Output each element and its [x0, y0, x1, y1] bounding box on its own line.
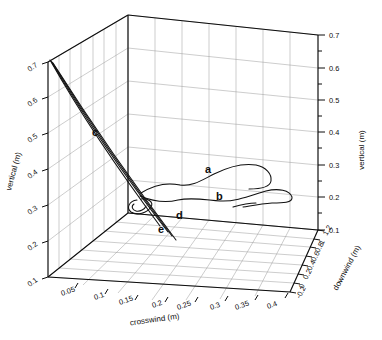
cw-tick-7: 0.4: [266, 299, 279, 311]
vertical-right-tick-labels: 0.7 0.6 0.5 0.4 0.3 0.2 0.1: [329, 31, 339, 235]
plot-canvas: 0.7 0.6 0.5 0.4 0.3 0.2 0.1 vertical (m)…: [0, 0, 382, 340]
vl-tick-0: 0.7: [26, 60, 40, 73]
curve-label-e: e: [158, 223, 164, 235]
crosswind-axis-title: crosswind (m): [129, 312, 180, 328]
curve-label-a: a: [205, 163, 212, 175]
vl-tick-6: 0.1: [26, 275, 40, 288]
cw-tick-2: 0.15: [118, 294, 135, 307]
curve-label-d: d: [176, 209, 183, 221]
vr-tick-2: 0.5: [329, 96, 339, 105]
vl-tick-5: 0.2: [26, 239, 40, 252]
crosswind-axis-ticks: [75, 283, 288, 302]
cw-tick-1: 0.1: [93, 290, 106, 302]
vr-tick-0: 0.7: [329, 31, 339, 40]
vl-tick-1: 0.6: [26, 95, 40, 108]
vr-tick-4: 0.3: [329, 161, 339, 170]
grid-back-left-wall: [48, 15, 128, 277]
curve-label-b: b: [216, 190, 223, 202]
cw-tick-6: 0.35: [234, 299, 251, 312]
curve-e-loop-inner: [132, 204, 146, 211]
vertical-left-axis: [42, 62, 48, 279]
three-d-plot-figure: 0.7 0.6 0.5 0.4 0.3 0.2 0.1 vertical (m)…: [0, 0, 382, 340]
cw-tick-4: 0.25: [176, 299, 193, 312]
vertical-right-axis: [318, 35, 325, 230]
cw-tick-3: 0.2: [151, 298, 164, 310]
vl-tick-4: 0.3: [26, 203, 40, 216]
cw-tick-5: 0.3: [209, 300, 222, 312]
vl-tick-3: 0.4: [26, 167, 40, 180]
vl-tick-2: 0.5: [26, 131, 40, 144]
downwind-axis-title: downwind (m): [331, 243, 362, 291]
vr-tick-3: 0.4: [329, 128, 339, 137]
vertical-left-axis-title: vertical (m): [4, 151, 23, 192]
cw-tick-0: 0.05: [60, 285, 77, 298]
curve-label-c: c: [92, 126, 98, 138]
vr-tick-5: 0.2: [329, 193, 339, 202]
vertical-right-axis-title: vertical (m): [357, 130, 366, 170]
crosswind-tick-labels: 0.05 0.1 0.15 0.2 0.25 0.3 0.35 0.4: [60, 285, 279, 312]
grid-back-right-wall: [128, 15, 318, 230]
data-curves: [50, 60, 292, 240]
vr-tick-1: 0.6: [329, 64, 339, 73]
downwind-tick-labels: -0.2 0 0.2 0.4 0.6 0.8 1 1.2: [294, 224, 334, 300]
vertical-left-tick-labels: 0.7 0.6 0.5 0.4 0.3 0.2 0.1: [26, 60, 40, 288]
